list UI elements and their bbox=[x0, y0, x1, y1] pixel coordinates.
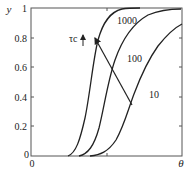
curve-100 bbox=[79, 9, 181, 156]
curve-label-100: 100 bbox=[127, 53, 142, 64]
curve-1000 bbox=[68, 8, 140, 156]
parameter-arrow bbox=[95, 38, 132, 105]
curve-label-10: 10 bbox=[149, 89, 159, 100]
y-tick-label: 1 bbox=[22, 3, 27, 14]
chart-canvas: 1 0.8 0.6 0.4 0.2 0 0 θ y 1000 100 10 τc bbox=[0, 0, 193, 176]
x-tick-label: 0 bbox=[30, 158, 35, 169]
y-axis-label: y bbox=[6, 3, 12, 15]
y-tick-label: 0.2 bbox=[15, 121, 28, 132]
parameter-label: τc bbox=[69, 33, 78, 44]
curve-label-1000: 1000 bbox=[117, 15, 137, 26]
y-tick-label: 0.4 bbox=[15, 92, 28, 103]
y-tick-label: 0 bbox=[24, 149, 29, 160]
y-tick-label: 0.6 bbox=[15, 62, 28, 73]
curve-10 bbox=[90, 24, 182, 156]
x-axis-label: θ bbox=[178, 157, 184, 169]
plot-frame bbox=[31, 8, 182, 156]
y-tick-label: 0.8 bbox=[15, 33, 28, 44]
